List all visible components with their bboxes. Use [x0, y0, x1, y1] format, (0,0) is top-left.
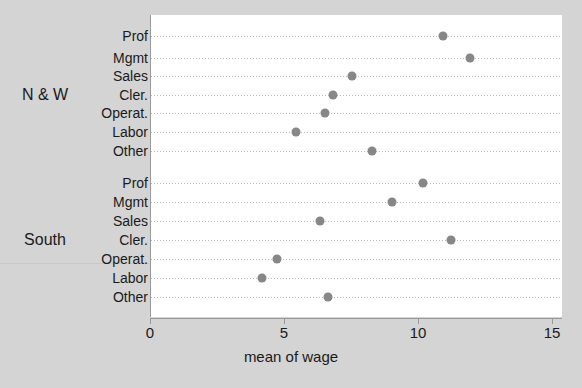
row-label-mgmt: Mgmt — [113, 50, 148, 66]
x-axis-line — [150, 318, 562, 319]
gridline-row — [151, 202, 562, 203]
dot-plot-figure: mean of wage ProfMgmtSalesCler.Operat.La… — [0, 0, 582, 388]
data-point-marker — [388, 198, 397, 207]
gridline-row — [151, 113, 562, 114]
row-label-other: Other — [113, 289, 148, 305]
gridline-row — [151, 132, 562, 133]
row-label-prof: Prof — [122, 28, 148, 44]
gridline-row — [151, 151, 562, 152]
row-label-cler: Cler. — [119, 232, 148, 248]
gridline-row — [151, 183, 562, 184]
gridline-row — [151, 297, 562, 298]
row-label-cler: Cler. — [119, 87, 148, 103]
data-point-marker — [447, 236, 456, 245]
row-label-labor: Labor — [112, 124, 148, 140]
data-point-marker — [439, 32, 448, 41]
row-label-labor: Labor — [112, 270, 148, 286]
gridline-row — [151, 58, 562, 59]
data-point-marker — [329, 90, 338, 99]
x-axis-title: mean of wage — [0, 348, 582, 365]
row-label-sales: Sales — [113, 68, 148, 84]
group-label: South — [0, 231, 90, 249]
gridline-row — [151, 95, 562, 96]
gridline-row — [151, 221, 562, 222]
data-point-marker — [258, 274, 267, 283]
x-tick-label: 0 — [146, 324, 154, 342]
data-point-marker — [321, 109, 330, 118]
plot-area — [150, 15, 562, 317]
row-label-mgmt: Mgmt — [113, 194, 148, 210]
row-label-operat: Operat. — [101, 105, 148, 121]
gridline-row — [151, 278, 562, 279]
data-point-marker — [272, 255, 281, 264]
data-point-marker — [315, 217, 324, 226]
gridline-row — [151, 76, 562, 77]
gridline-row — [151, 240, 562, 241]
gridline-row — [151, 259, 562, 260]
x-tick-label: 5 — [280, 324, 288, 342]
gridline-row — [151, 36, 562, 37]
data-point-marker — [419, 179, 428, 188]
row-label-other: Other — [113, 143, 148, 159]
data-point-marker — [465, 53, 474, 62]
data-point-marker — [348, 72, 357, 81]
data-point-marker — [323, 293, 332, 302]
x-tick-label: 10 — [410, 324, 427, 342]
row-label-sales: Sales — [113, 213, 148, 229]
x-tick-label: 15 — [544, 324, 561, 342]
data-point-marker — [368, 147, 377, 156]
data-point-marker — [291, 128, 300, 137]
row-label-operat: Operat. — [101, 251, 148, 267]
group-label: N & W — [0, 86, 90, 104]
row-label-prof: Prof — [122, 175, 148, 191]
